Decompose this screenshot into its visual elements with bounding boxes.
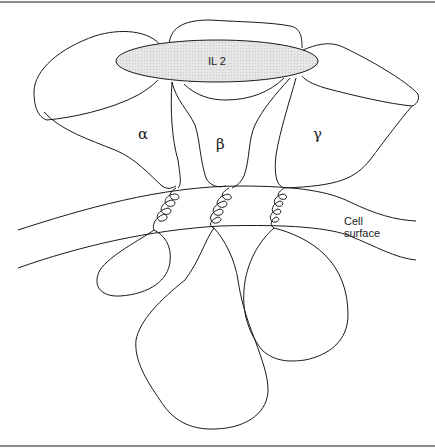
cell-label: Cell: [344, 215, 363, 227]
il2-receptor-diagram: IL 2 α β γ Cell surface: [0, 0, 435, 448]
transmembrane-helices: [153, 188, 286, 230]
alpha-subunit-intracellular: [97, 230, 170, 296]
beta-label: β: [216, 135, 225, 153]
beta-subunit-intracellular: [136, 228, 268, 429]
gamma-subunit-intracellular: [244, 228, 348, 361]
il2-label: IL 2: [208, 55, 226, 67]
cell-membrane: Cell surface: [18, 186, 416, 268]
gamma-label: γ: [313, 125, 322, 143]
alpha-label: α: [138, 125, 148, 143]
il2-ligand: IL 2: [116, 40, 318, 82]
surface-label: surface: [344, 227, 380, 239]
